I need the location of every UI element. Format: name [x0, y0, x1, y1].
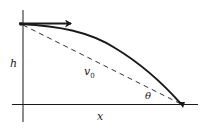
velocity-label: v0	[84, 66, 95, 80]
angle-label: θ	[145, 91, 151, 101]
distance-label: x	[97, 111, 103, 122]
projectile-diagram	[0, 0, 208, 130]
velocity-subscript: 0	[90, 72, 94, 80]
trajectory-curve	[20, 24, 182, 105]
height-label: h	[10, 58, 17, 69]
line-of-sight	[23, 25, 181, 104]
launch-point	[19, 22, 23, 26]
